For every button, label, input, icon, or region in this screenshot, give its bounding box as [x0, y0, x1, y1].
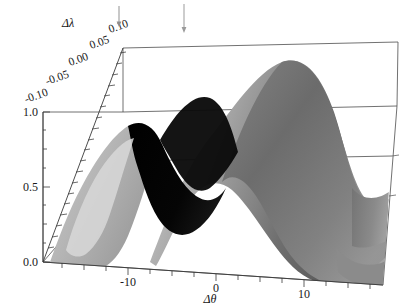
y-tick-label-0_10: 0.10 — [107, 17, 130, 35]
x-tick-label-10: 10 — [298, 287, 310, 301]
y-tick-label-neg0_05: -0.05 — [44, 68, 71, 87]
figure-3d-surface-plot: 1.0 0.5 0.0 -10 0 10 Δθ — [0, 0, 406, 307]
surface-right-skirt — [352, 188, 392, 248]
plot-canvas: 1.0 0.5 0.0 -10 0 10 Δθ — [0, 0, 406, 307]
y-tick-label-neg0_10: -0.10 — [23, 86, 50, 105]
arrow-marker-right — [182, 4, 187, 33]
z-tick-label-0: 0.0 — [23, 255, 38, 269]
surface-mesh — [50, 60, 393, 286]
y-axis-label: Δλ — [61, 16, 74, 30]
z-tick-label-1: 1.0 — [23, 105, 38, 119]
x-tick-label-neg10: -10 — [120, 275, 136, 289]
y-tick-label-0_05: 0.05 — [88, 33, 111, 51]
z-axis: 1.0 0.5 0.0 — [23, 105, 50, 269]
y-tick-label-0_00: 0.00 — [67, 50, 90, 68]
z-tick-label-0_5: 0.5 — [23, 180, 38, 194]
x-axis-label: Δθ — [203, 292, 217, 306]
